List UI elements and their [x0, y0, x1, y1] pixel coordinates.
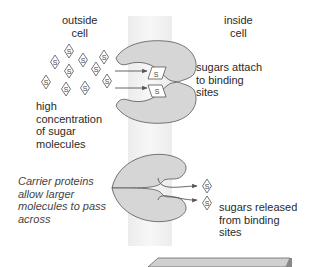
sugar-molecules-outside	[42, 44, 112, 96]
carrier-protein-bound: S S	[116, 41, 196, 124]
svg-text:S: S	[154, 71, 159, 78]
svg-text:S: S	[155, 88, 160, 95]
carrier-protein-released	[112, 154, 186, 221]
membrane-slab	[148, 258, 292, 267]
diagram-graphics: S S S	[0, 0, 312, 267]
sugar-molecules-released	[203, 179, 212, 210]
